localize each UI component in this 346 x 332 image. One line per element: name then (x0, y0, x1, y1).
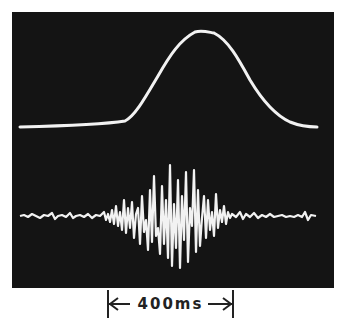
scale-bar-label: 400ms (108, 294, 233, 314)
oscilloscope-figure: 400ms (0, 0, 346, 332)
traces-layer (0, 0, 346, 332)
envelope-trace (20, 31, 317, 127)
burst-trace (20, 165, 316, 268)
